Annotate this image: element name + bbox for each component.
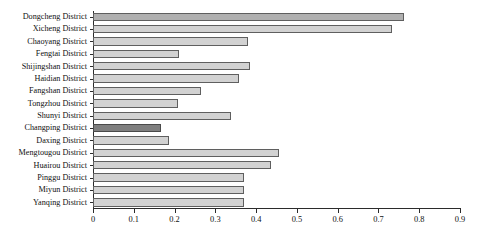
bar <box>93 198 244 206</box>
y-axis-label: Yanqing District <box>0 197 90 209</box>
y-axis-label: Fangshan District <box>0 85 90 97</box>
bar <box>93 136 169 144</box>
bar-row <box>93 197 460 209</box>
x-axis-tick-label: 0.9 <box>445 214 475 226</box>
x-axis-tick <box>338 209 339 213</box>
bar <box>93 173 244 181</box>
x-axis-tick <box>419 209 420 213</box>
bar-row <box>93 73 460 85</box>
bar <box>93 99 178 107</box>
bar-chart: Dongcheng District Xicheng District Chao… <box>0 0 479 240</box>
bar <box>93 62 250 70</box>
x-axis-tick-label: 0.8 <box>404 214 434 226</box>
bar-series <box>93 11 460 209</box>
x-axis-tick-label: 0 <box>78 214 108 226</box>
bar-row <box>93 184 460 196</box>
y-axis-label: Dongcheng District <box>0 11 90 23</box>
bar-row <box>93 160 460 172</box>
x-axis-tick-label: 0.5 <box>282 214 312 226</box>
y-axis-label: Mengtougou District <box>0 147 90 159</box>
x-axis-tick <box>460 209 461 213</box>
bar-row <box>93 110 460 122</box>
x-axis-tick <box>256 209 257 213</box>
y-axis-label: Daxing District <box>0 135 90 147</box>
bar-row <box>93 36 460 48</box>
bar-row <box>93 23 460 35</box>
x-axis-tick-labels: 00.10.20.30.40.50.60.70.80.9 <box>0 214 479 230</box>
y-axis-label: Changping District <box>0 122 90 134</box>
bar <box>93 50 179 58</box>
x-axis-tick <box>134 209 135 213</box>
bar-row <box>93 98 460 110</box>
y-axis-label: Huairou District <box>0 160 90 172</box>
bar <box>93 87 201 95</box>
y-axis-label: Tongzhou District <box>0 98 90 110</box>
y-axis-label: Shijingshan District <box>0 61 90 73</box>
bar <box>93 149 279 157</box>
y-axis-label: Miyun District <box>0 184 90 196</box>
x-axis-tick <box>378 209 379 213</box>
x-axis-tick-label: 0.6 <box>323 214 353 226</box>
bar <box>93 124 161 132</box>
bar <box>93 186 244 194</box>
bar-row <box>93 172 460 184</box>
x-axis-tick <box>175 209 176 213</box>
bar <box>93 161 271 169</box>
y-axis-category-labels: Dongcheng District Xicheng District Chao… <box>0 11 90 209</box>
x-axis-tick <box>297 209 298 213</box>
bar-row <box>93 48 460 60</box>
x-axis-tick-label: 0.4 <box>241 214 271 226</box>
bar-row <box>93 135 460 147</box>
bar-row <box>93 11 460 23</box>
x-axis-tick-label: 0.7 <box>363 214 393 226</box>
bar <box>93 37 248 45</box>
x-axis-tick-label: 0.3 <box>200 214 230 226</box>
x-axis-tick <box>215 209 216 213</box>
y-axis-label: Fengtai District <box>0 48 90 60</box>
y-axis-label: Chaoyang District <box>0 36 90 48</box>
bar <box>93 74 239 82</box>
bar-row <box>93 85 460 97</box>
bar-row <box>93 61 460 73</box>
bar <box>93 25 392 33</box>
x-axis-tick <box>93 209 94 213</box>
bar-row <box>93 147 460 159</box>
x-axis-tick-label: 0.1 <box>119 214 149 226</box>
plot-area <box>93 11 460 209</box>
y-axis-label: Shunyi District <box>0 110 90 122</box>
bar <box>93 13 404 21</box>
y-axis-label: Haidian District <box>0 73 90 85</box>
bar <box>93 112 231 120</box>
x-axis-tick-label: 0.2 <box>160 214 190 226</box>
y-axis-label: Xicheng District <box>0 23 90 35</box>
y-axis-label: Pinggu District <box>0 172 90 184</box>
bar-row <box>93 122 460 134</box>
